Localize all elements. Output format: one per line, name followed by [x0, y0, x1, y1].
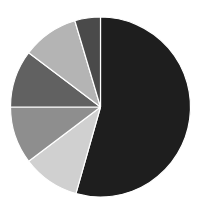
pie-chart-canvas: [0, 0, 205, 212]
pie-chart: [0, 0, 205, 212]
